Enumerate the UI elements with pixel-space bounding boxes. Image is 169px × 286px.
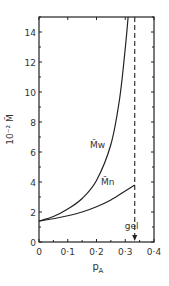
y-tick-label: 0 <box>30 238 36 248</box>
x-tick-label: 0 <box>36 247 42 257</box>
mw-curve <box>39 17 128 221</box>
x-axis-label-sub: A <box>99 267 104 275</box>
plot-border <box>39 17 154 242</box>
mn-label: M̄n <box>101 176 114 187</box>
y-axis-label: 10⁻² M̄ <box>4 114 15 144</box>
gel-arrow-icon <box>132 235 137 241</box>
curves: gelM̄wM̄n <box>39 17 139 241</box>
mn-curve <box>39 185 135 221</box>
gel-label: gel <box>125 221 139 231</box>
y-tick-label: 10 <box>25 88 37 98</box>
y-tick-label: 6 <box>30 148 36 158</box>
x-tick-label: 0·3 <box>118 247 132 257</box>
y-tick-label: 14 <box>25 28 37 38</box>
x-tick-label: 0·4 <box>147 247 162 257</box>
y-tick-label: 8 <box>30 118 36 128</box>
y-tick-label: 12 <box>25 58 36 68</box>
chart: 00·10·20·30·40246810121410⁻² M̄pA gelM̄w… <box>0 0 169 286</box>
y-tick-label: 2 <box>30 208 36 218</box>
mw-label: M̄w <box>90 139 105 150</box>
y-tick-label: 4 <box>30 178 36 188</box>
x-tick-label: 0·1 <box>61 247 75 257</box>
x-tick-label: 0·2 <box>89 247 103 257</box>
plot-frame: 00·10·20·30·40246810121410⁻² M̄pA <box>4 17 161 275</box>
